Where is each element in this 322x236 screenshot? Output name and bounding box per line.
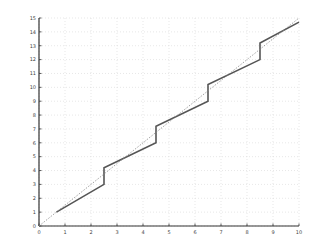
x-tick-label: 6 — [193, 229, 196, 235]
x-tick-label: 0 — [37, 229, 40, 235]
y-tick-label: 13 — [30, 43, 36, 49]
line-chart: 012345678910 0123456789101112131415 — [0, 0, 322, 235]
y-axis-ticks: 0123456789101112131415 — [30, 15, 42, 229]
x-tick-label: 4 — [141, 229, 144, 235]
y-tick-label: 3 — [33, 181, 36, 187]
y-tick-label: 2 — [33, 195, 36, 201]
x-axis-ticks: 012345678910 — [37, 224, 302, 236]
y-tick-label: 12 — [30, 56, 36, 62]
x-tick-label: 9 — [271, 229, 274, 235]
y-tick-label: 1 — [33, 209, 36, 215]
y-tick-label: 6 — [33, 140, 36, 146]
x-tick-label: 7 — [219, 229, 222, 235]
y-tick-label: 0 — [33, 223, 36, 229]
x-tick-label: 10 — [296, 229, 302, 235]
series-staircase-line — [56, 22, 299, 212]
y-tick-label: 15 — [30, 15, 36, 21]
y-tick-label: 8 — [33, 112, 36, 118]
y-tick-label: 14 — [30, 29, 36, 35]
y-tick-label: 9 — [33, 98, 36, 104]
x-tick-label: 8 — [245, 229, 248, 235]
x-tick-label: 2 — [89, 229, 92, 235]
y-tick-label: 4 — [33, 167, 36, 173]
data-series — [39, 18, 299, 226]
x-tick-label: 3 — [115, 229, 118, 235]
y-tick-label: 7 — [33, 126, 36, 132]
y-tick-label: 11 — [30, 70, 36, 76]
x-tick-label: 1 — [63, 229, 66, 235]
x-tick-label: 5 — [167, 229, 170, 235]
y-tick-label: 10 — [30, 84, 36, 90]
y-tick-label: 5 — [33, 153, 36, 159]
series-reference-line — [39, 18, 299, 226]
